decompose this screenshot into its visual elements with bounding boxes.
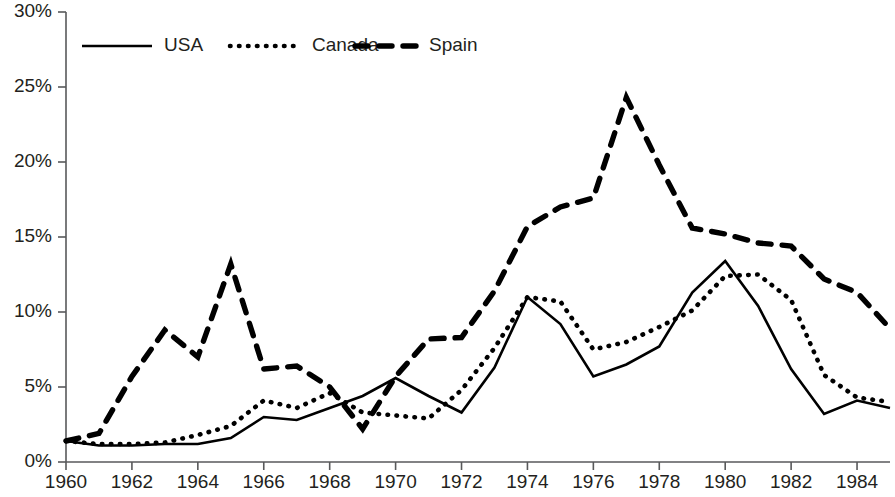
- chart-legend: USACanadaSpain: [82, 34, 478, 55]
- y-tick-label: 30%: [14, 0, 52, 21]
- x-axis-tick-labels: 1960196219641966196819701972197419761978…: [45, 471, 879, 492]
- y-axis-tick-labels: 0%5%10%15%20%25%30%: [14, 0, 52, 471]
- x-tick-label: 1962: [111, 471, 153, 492]
- y-axis: 0%5%10%15%20%25%30%: [14, 0, 66, 471]
- x-tick-label: 1980: [704, 471, 746, 492]
- x-axis: 1960196219641966196819701972197419761978…: [45, 462, 890, 492]
- x-tick-label: 1964: [177, 471, 220, 492]
- x-tick-label: 1960: [45, 471, 87, 492]
- x-tick-label: 1970: [374, 471, 416, 492]
- x-tick-label: 1972: [440, 471, 482, 492]
- x-tick-label: 1978: [638, 471, 680, 492]
- y-tick-label: 0%: [25, 450, 53, 471]
- legend-label-usa: USA: [164, 34, 203, 55]
- series-line-usa: [66, 261, 890, 446]
- y-axis-ticks: [58, 12, 66, 462]
- x-tick-label: 1976: [572, 471, 614, 492]
- legend-label-spain: Spain: [429, 34, 478, 55]
- x-tick-label: 1968: [309, 471, 351, 492]
- y-tick-label: 15%: [14, 225, 52, 246]
- y-tick-label: 10%: [14, 300, 52, 321]
- x-tick-label: 1984: [836, 471, 879, 492]
- x-tick-label: 1974: [506, 471, 549, 492]
- line-chart: 0%5%10%15%20%25%30% 19601962196419661968…: [0, 0, 895, 497]
- plot-area: [66, 98, 890, 446]
- y-tick-label: 20%: [14, 150, 52, 171]
- chart-canvas: 0%5%10%15%20%25%30% 19601962196419661968…: [0, 0, 895, 497]
- series-line-canada: [66, 275, 890, 445]
- y-tick-label: 5%: [25, 375, 53, 396]
- x-tick-label: 1966: [243, 471, 285, 492]
- x-tick-label: 1982: [770, 471, 812, 492]
- y-tick-label: 25%: [14, 75, 52, 96]
- x-axis-ticks: [66, 462, 857, 470]
